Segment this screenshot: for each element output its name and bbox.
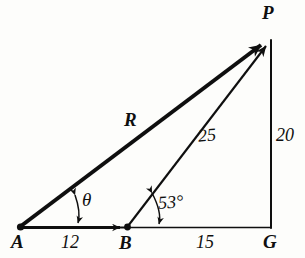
- angle-arc-theta: [75, 195, 79, 223]
- vector-BP: [128, 46, 266, 226]
- magnitude-label-AB: 12: [61, 233, 79, 251]
- vertex-dot-B: [124, 224, 131, 231]
- magnitude-label-BG: 15: [196, 233, 214, 251]
- vector-R: [21, 45, 261, 226]
- vector-diagram-figure: A B G P R 25 12 15 20 θ 53°: [0, 0, 305, 258]
- magnitude-label-BP: 25: [197, 125, 217, 145]
- diagram-canvas: [0, 0, 305, 258]
- vertex-label-P: P: [262, 3, 274, 22]
- vertex-label-G: G: [263, 232, 277, 251]
- vertex-dot-A: [17, 223, 24, 230]
- vertex-label-A: A: [11, 232, 24, 251]
- angle-label-53: 53°: [157, 192, 183, 212]
- vector-label-R: R: [124, 110, 137, 129]
- vertex-label-B: B: [119, 233, 132, 252]
- angle-label-theta: θ: [82, 190, 91, 209]
- magnitude-label-PG: 20: [276, 126, 294, 144]
